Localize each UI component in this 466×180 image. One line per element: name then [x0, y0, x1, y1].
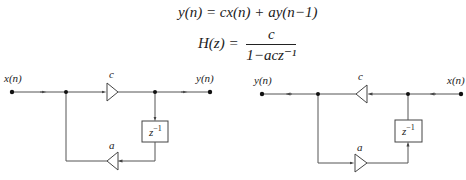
feedback-gain-amplifier-icon [107, 152, 118, 170]
left-block-diagram [12, 83, 210, 170]
output-node [208, 90, 212, 94]
output-node [260, 92, 264, 96]
forward-gain-amplifier-icon [107, 83, 118, 101]
right-feedback-gain-label: a [357, 141, 363, 153]
left-input-label: x(n) [3, 72, 22, 85]
left-forward-gain-label: c [109, 68, 114, 80]
input-node [459, 92, 463, 96]
right-input-label: x(n) [446, 74, 465, 87]
block-diagrams: x(n) y(n) c a z−1 y(n) x(n) c a z−1 [0, 0, 466, 180]
sum-node [64, 90, 68, 94]
right-output-label: y(n) [253, 74, 272, 87]
right-forward-gain-label: c [358, 70, 363, 82]
forward-gain-amplifier-icon [356, 85, 367, 103]
right-block-diagram [262, 85, 461, 172]
branch-node [316, 92, 320, 96]
sum-node [406, 92, 410, 96]
branch-node [153, 90, 157, 94]
left-feedback-gain-label: a [109, 139, 115, 151]
feedback-gain-amplifier-icon [355, 154, 367, 172]
left-output-label: y(n) [195, 72, 214, 85]
input-node [10, 90, 14, 94]
